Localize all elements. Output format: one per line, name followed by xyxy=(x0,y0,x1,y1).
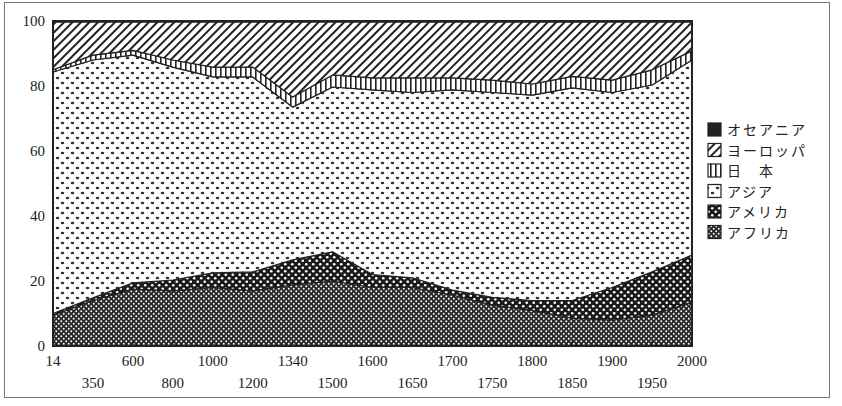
x-tick-label: 1700 xyxy=(437,353,467,369)
x-tick-label: 1950 xyxy=(637,375,667,391)
x-tick-label: 600 xyxy=(122,353,145,369)
legend-label: オセアニア xyxy=(727,122,807,138)
legend-swatch-icon xyxy=(708,164,721,177)
legend-label: アジア xyxy=(727,184,774,200)
y-tick-label: 0 xyxy=(38,338,46,354)
x-tick-label: 1340 xyxy=(278,353,308,369)
legend-label: 日 本 xyxy=(727,163,775,179)
legend: オセアニアヨーロッパ日 本アジアアメリカアフリカ xyxy=(708,122,807,241)
legend-swatch-icon xyxy=(708,185,721,198)
legend-label: ヨーロッパ xyxy=(727,143,807,159)
x-tick-label: 800 xyxy=(162,375,185,391)
stacked-area-chart: 020406080100 143506008001000120013401500… xyxy=(0,0,842,406)
x-tick-label: 1800 xyxy=(517,353,547,369)
x-tick-label: 1600 xyxy=(358,353,388,369)
legend-swatch-icon xyxy=(708,205,721,218)
x-tick-label: 1650 xyxy=(397,375,427,391)
x-tick-label: 2000 xyxy=(677,353,707,369)
legend-swatch-icon xyxy=(708,144,721,157)
y-axis: 020406080100 xyxy=(23,13,46,354)
legend-swatch-icon xyxy=(708,226,721,239)
x-axis: 1435060080010001200134015001600165017001… xyxy=(46,341,708,391)
y-tick-label: 100 xyxy=(23,13,46,29)
x-tick-label: 1900 xyxy=(597,353,627,369)
y-tick-label: 60 xyxy=(30,143,45,159)
x-tick-label: 14 xyxy=(46,353,62,369)
legend-label: アフリカ xyxy=(727,225,791,241)
x-tick-label: 1200 xyxy=(238,375,268,391)
x-tick-label: 1500 xyxy=(318,375,348,391)
y-tick-label: 40 xyxy=(30,208,45,224)
legend-swatch-icon xyxy=(708,123,721,136)
x-tick-label: 1000 xyxy=(198,353,228,369)
area-series-2 xyxy=(53,55,692,313)
y-tick-label: 20 xyxy=(30,273,45,289)
x-tick-label: 350 xyxy=(82,375,105,391)
y-tick-label: 80 xyxy=(30,78,45,94)
x-tick-label: 1750 xyxy=(477,375,507,391)
area-layers xyxy=(53,21,692,346)
legend-label: アメリカ xyxy=(727,204,790,220)
x-tick-label: 1850 xyxy=(557,375,587,391)
